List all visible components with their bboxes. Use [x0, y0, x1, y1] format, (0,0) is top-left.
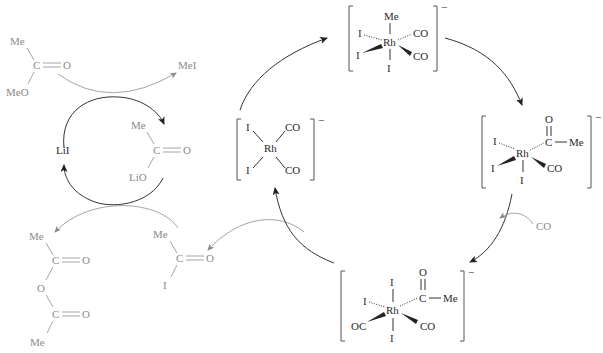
aa-o1: O	[82, 254, 90, 266]
aa-bridge-o: O	[37, 282, 45, 294]
la-me: Me	[131, 119, 146, 131]
catalytic-cycle-diagram: Me C O MeO MeI LiI Me C O LiO Me C O O C	[0, 0, 603, 353]
rhaco-charge: −	[468, 266, 474, 278]
ai-i: I	[163, 279, 167, 291]
rhaco-i-left: I	[363, 295, 367, 307]
rhaco-i-bottom: I	[390, 332, 394, 344]
rhac-rh: Rh	[516, 147, 529, 159]
rhsp-co1: CO	[285, 121, 300, 133]
rhac-co: CO	[547, 162, 562, 174]
methyl-acetate: Me C O MeO	[6, 35, 71, 98]
rhac-me: Me	[569, 136, 584, 148]
rhaco-oc: OC	[351, 320, 366, 332]
rhac-charge: −	[595, 111, 601, 123]
aa-me2: Me	[30, 336, 45, 348]
arrow-reductive-elimination	[275, 188, 334, 263]
aa-c1: C	[52, 254, 59, 266]
ma-o: O	[63, 59, 71, 71]
rhac-c: C	[545, 136, 552, 148]
rhaco-o: O	[419, 266, 427, 278]
rhme-co2: CO	[413, 50, 428, 62]
la-o: O	[183, 144, 191, 156]
acetyl-iodide: Me C O I	[153, 228, 214, 291]
arrow-ma-to-mei	[58, 73, 176, 93]
rhac-i3: I	[520, 174, 524, 186]
rhaco-i-top: I	[390, 276, 394, 288]
la-c: C	[153, 144, 160, 156]
rh-acyl-co-complex: − O C Me I Rh I OC CO I	[341, 266, 474, 344]
rh-methyl-complex: − Me Rh I I CO CO I	[349, 1, 447, 74]
rhsp-i1: I	[246, 121, 250, 133]
arrow-to-acetyl-iodide	[208, 220, 304, 250]
arrow-co-addition	[470, 194, 512, 262]
ai-c: C	[176, 252, 183, 264]
rhsp-i2: I	[246, 164, 250, 176]
rhme-charge: −	[441, 1, 447, 13]
rhaco-me: Me	[443, 292, 458, 304]
rhsp-co2: CO	[285, 164, 300, 176]
rhme-rh: Rh	[383, 36, 396, 48]
lithium-acetate: Me C O LiO	[129, 119, 191, 183]
aa-o2: O	[82, 308, 90, 320]
aa-c2: C	[52, 308, 59, 320]
rhac-o: O	[545, 113, 553, 125]
ma-meo: MeO	[6, 86, 29, 98]
ma-c: C	[33, 59, 40, 71]
acetic-anhydride: Me C O O C O Me	[29, 230, 90, 348]
rh-acyl-complex: − O C Me Rh I I I CO	[482, 111, 601, 188]
ai-o: O	[206, 252, 214, 264]
arrow-lioac-to-lii	[64, 165, 163, 205]
rhaco-c: C	[419, 292, 426, 304]
carbon-monoxide: CO	[536, 220, 551, 232]
rhac-i1: I	[493, 135, 497, 147]
rhme-i2: I	[356, 49, 360, 61]
arrow-lii-to-lioac	[64, 97, 164, 148]
rhaco-co: CO	[420, 320, 435, 332]
arrow-migratory-insertion	[445, 38, 522, 105]
rhaco-rh: Rh	[386, 304, 399, 316]
ai-me: Me	[153, 228, 168, 240]
rhme-co1: CO	[413, 27, 428, 39]
rhme-i3: I	[387, 62, 391, 74]
rhac-i2: I	[491, 162, 495, 174]
rhme-me: Me	[384, 10, 399, 22]
aa-me1: Me	[29, 230, 44, 242]
la-lio: LiO	[129, 171, 147, 183]
rhme-i1: I	[358, 27, 362, 39]
arrow-oxidative-addition	[240, 38, 327, 110]
lithium-iodide: LiI	[56, 144, 70, 156]
methyl-iodide: MeI	[178, 59, 197, 71]
rh-square-planar-complex: − I I CO CO Rh	[237, 114, 324, 180]
rhsp-charge: −	[318, 114, 324, 126]
ma-me: Me	[10, 35, 25, 47]
rhsp-rh: Rh	[264, 142, 277, 154]
